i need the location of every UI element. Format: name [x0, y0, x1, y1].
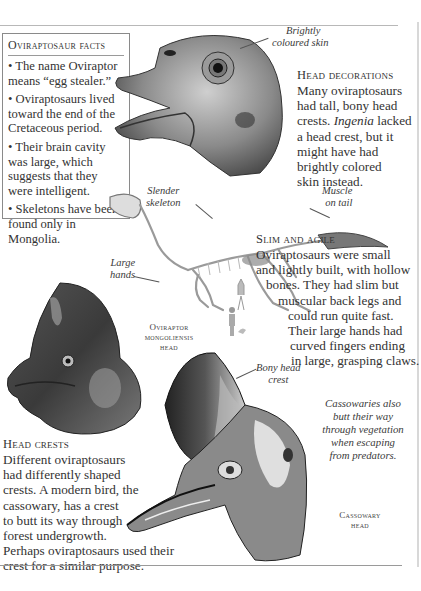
fact-item: • Oviraptosaurs lived toward the end of …: [8, 92, 124, 136]
section-heading: Head crests: [3, 437, 178, 452]
label-line: Large: [110, 257, 135, 269]
italic-genus: Ingenia: [334, 113, 374, 128]
text-line: Oviraptosaurs were small: [256, 247, 421, 262]
label-line: Brightly: [272, 25, 328, 37]
text-line: Many oviraptosaurs: [297, 83, 417, 98]
caption-line: Oviraptor: [134, 322, 204, 332]
label-brightly-coloured-skin: Brightly coloured skin: [272, 25, 328, 49]
text-line: Perhaps oviraptosaurs used their: [3, 543, 178, 558]
text-line: had tall, bony head: [297, 98, 417, 113]
text-line: a head crest, but it: [297, 129, 417, 144]
section-heading: Slim and agile: [256, 232, 421, 247]
section-heading: Head decorations: [297, 68, 417, 83]
text-span: crests.: [297, 113, 334, 128]
note-line: Cassowaries also: [308, 397, 418, 410]
label-line: skeleton: [146, 197, 180, 209]
text-line: to butt its way through: [3, 513, 178, 528]
label-line: on tail: [322, 197, 352, 209]
caption-line: Cassowary: [325, 510, 395, 520]
ingenia-head-illustration: [110, 28, 285, 178]
label-bony-head-crest: Bony head crest: [256, 362, 301, 386]
label-line: Muscle: [322, 185, 352, 197]
note-line: butt their way: [308, 410, 418, 423]
text-line: Their large hands had: [256, 323, 421, 338]
caption-cassowary-head: Cassowary head: [325, 510, 395, 530]
human-scale-icon: [224, 306, 248, 338]
text-line: crests. A modern bird, the: [3, 482, 178, 497]
label-slender-skeleton: Slender skeleton: [146, 185, 180, 209]
text-line: cassowary, has a crest: [3, 498, 178, 513]
caption-line: head: [325, 520, 395, 530]
text-line: might have had: [297, 144, 417, 159]
text-span: lacked: [374, 113, 412, 128]
text-line: muscular back legs and: [256, 293, 421, 308]
text-line: had differently shaped: [3, 467, 178, 482]
top-rule: [0, 25, 398, 26]
head-decorations-section: Head decorations Many oviraptosaurs had …: [297, 68, 417, 189]
section-body: Many oviraptosaurs had tall, bony head c…: [297, 83, 417, 189]
fact-item: • The name Oviraptor means “egg stealer.…: [8, 59, 124, 88]
text-line: bones. They had slim but: [256, 277, 421, 292]
cassowary-note: Cassowaries also butt their way through …: [308, 397, 418, 462]
text-line: crest for a similar purpose.: [3, 558, 178, 573]
caption-line: mongoliensis: [134, 332, 204, 342]
text-line: brightly colored: [297, 159, 417, 174]
label-line: Slender: [146, 185, 180, 197]
bottom-rule: [0, 565, 402, 566]
text-line: Different oviraptosaurs: [3, 452, 178, 467]
text-line: forest undergrowth.: [3, 528, 178, 543]
label-line: crest: [256, 374, 301, 386]
head-crests-section: Head crests Different oviraptosaurs had …: [3, 437, 178, 574]
section-body: Different oviraptosaurs had differently …: [3, 452, 178, 574]
label-line: Bony head: [256, 362, 301, 374]
note-line: through vegetation: [308, 423, 418, 436]
note-line: from predators.: [308, 449, 418, 462]
label-muscle-on-tail: Muscle on tail: [322, 185, 352, 209]
text-line: crests. Ingenia lacked: [297, 113, 417, 128]
text-line: could run quite fast.: [256, 308, 421, 323]
facts-title: Oviraptosaur facts: [8, 38, 124, 56]
text-line: and lightly built, with hollow: [256, 262, 421, 277]
label-line: coloured skin: [272, 37, 328, 49]
note-line: when escaping: [308, 436, 418, 449]
